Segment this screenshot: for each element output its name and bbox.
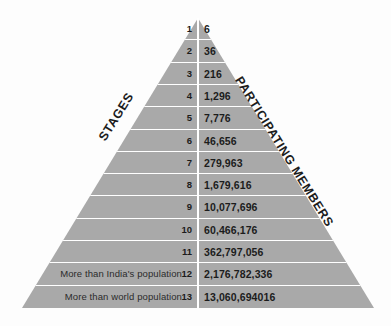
member-count: 362,797,056 <box>204 241 264 263</box>
pyramid-row: 57,776 <box>0 107 391 129</box>
pyramid-row: 3216 <box>0 63 391 85</box>
member-count: 279,963 <box>204 152 243 174</box>
stage-number: 5 <box>0 107 192 129</box>
stage-number: 12 <box>0 263 192 285</box>
stage-number: 7 <box>0 152 192 174</box>
pyramid-row: 236 <box>0 40 391 62</box>
pyramid-row: More than world population1313,060,69401… <box>0 286 391 308</box>
pyramid-row: 16 <box>0 18 391 40</box>
pyramid-text-layer: 16236321641,29657,776646,6567279,96381,6… <box>0 0 391 326</box>
member-count: 13,060,694016 <box>204 286 275 308</box>
member-count: 7,776 <box>204 107 231 129</box>
member-count: 60,466,176 <box>204 219 258 241</box>
pyramid-row: 41,296 <box>0 85 391 107</box>
stage-number: 3 <box>0 63 192 85</box>
member-count: 2,176,782,336 <box>204 263 272 285</box>
member-count: 1,296 <box>204 85 231 107</box>
stage-number: 1 <box>0 18 192 40</box>
stage-number: 6 <box>0 130 192 152</box>
stage-number: 9 <box>0 196 192 218</box>
stage-number: 8 <box>0 174 192 196</box>
pyramid-row: More than India's population122,176,782,… <box>0 263 391 285</box>
member-count: 6 <box>204 18 210 40</box>
member-count: 216 <box>204 63 222 85</box>
member-count: 10,077,696 <box>204 196 258 218</box>
member-count: 46,656 <box>204 130 237 152</box>
stage-number: 11 <box>0 241 192 263</box>
pyramid-row: 11362,797,056 <box>0 241 391 263</box>
stage-number: 2 <box>0 40 192 62</box>
stage-number: 13 <box>0 286 192 308</box>
stage-number: 10 <box>0 219 192 241</box>
pyramid-row: 81,679,616 <box>0 174 391 196</box>
pyramid-row: 646,656 <box>0 130 391 152</box>
stage-number: 4 <box>0 85 192 107</box>
pyramid-diagram: 16236321641,29657,776646,6567279,96381,6… <box>0 0 391 326</box>
member-count: 1,679,616 <box>204 174 252 196</box>
member-count: 36 <box>204 40 216 62</box>
pyramid-row: 7279,963 <box>0 152 391 174</box>
